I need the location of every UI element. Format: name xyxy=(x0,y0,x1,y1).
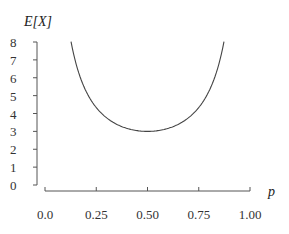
y-tick-label: 0 xyxy=(10,178,17,193)
y-tick-label: 8 xyxy=(10,35,17,50)
x-axis-title: p xyxy=(267,184,275,199)
y-tick-label: 2 xyxy=(10,142,17,157)
x-tick-label: 1.00 xyxy=(239,207,262,222)
y-tick-label: 7 xyxy=(10,53,17,68)
y-tick-label: 3 xyxy=(10,124,17,139)
x-axis-ticks: 0.00.250.500.751.00 xyxy=(37,187,262,222)
expected-value-curve xyxy=(71,42,224,132)
chart-canvas: E[X] 012345678 0.00.250.500.751.00 p xyxy=(0,0,289,234)
y-tick-label: 1 xyxy=(10,160,17,175)
x-tick-label: 0.25 xyxy=(85,207,108,222)
y-axis-ticks: 012345678 xyxy=(10,35,37,193)
x-tick-label: 0.50 xyxy=(136,207,159,222)
y-tick-label: 4 xyxy=(10,107,17,122)
y-tick-label: 5 xyxy=(10,89,17,104)
x-tick-label: 0.0 xyxy=(37,207,53,222)
x-tick-label: 0.75 xyxy=(187,207,210,222)
y-axis-title: E[X] xyxy=(23,14,52,29)
y-tick-label: 6 xyxy=(10,71,17,86)
